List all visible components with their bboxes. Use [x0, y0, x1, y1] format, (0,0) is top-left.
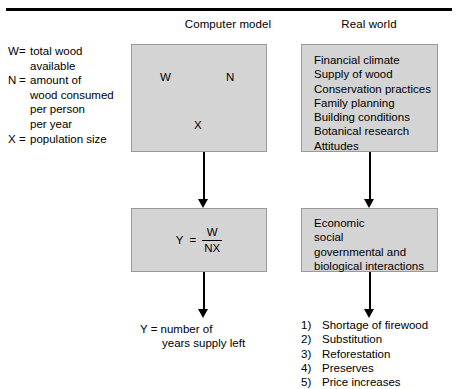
column-header-computer-model: Computer model — [185, 18, 271, 30]
arrow-head-icon — [364, 199, 374, 208]
legend-continuation: per year — [8, 117, 120, 132]
legend-item-x: X = population size — [8, 132, 120, 147]
legend-symbol: X — [8, 132, 19, 147]
legend-definition: amount of — [30, 73, 120, 88]
formula-result: Y — [176, 234, 184, 246]
legend-symbol: W — [8, 44, 19, 59]
outcome-label: Substitution — [322, 332, 382, 346]
interaction-line: governmental and — [314, 245, 433, 259]
outcome-label: Reforestation — [322, 347, 390, 361]
column-header-real-world: Real world — [341, 18, 396, 30]
arrow-down-factors-to-interactions — [364, 152, 375, 208]
arrow-down-interactions-to-outcomes — [364, 272, 375, 318]
arrow-shaft — [369, 152, 371, 199]
formula-box: Y = W NX — [131, 208, 267, 272]
legend-equals: = — [19, 132, 30, 147]
outcome-item: 4) Preserves — [301, 361, 456, 375]
variable-n: N — [226, 71, 234, 83]
arrow-head-icon — [198, 199, 208, 208]
fraction-numerator: W — [205, 226, 220, 239]
legend-continuation: available — [8, 59, 120, 74]
outcome-item: 1) Shortage of firewood — [301, 318, 456, 332]
outcome-index: 3) — [301, 347, 322, 361]
real-world-factors-box: Financial climate Supply of wood Conserv… — [301, 44, 438, 152]
interaction-line: Economic — [314, 216, 433, 230]
outcome-index: 4) — [301, 361, 322, 375]
interactions-list: Economic social governmental and biologi… — [314, 216, 433, 273]
model-output-text: Y = number of years supply left — [140, 322, 290, 351]
outcome-item: 2) Substitution — [301, 332, 456, 346]
arrow-shaft — [203, 272, 205, 309]
arrow-head-icon — [364, 309, 374, 318]
factor-item: Botanical research — [314, 124, 433, 138]
variable-x: X — [194, 119, 202, 131]
fraction-denominator: NX — [202, 241, 222, 254]
real-world-outcomes-list: 1) Shortage of firewood 2) Substitution … — [301, 318, 456, 389]
outcome-label: Preserves — [322, 361, 374, 375]
legend-definition: total wood — [30, 44, 120, 59]
model-output-line1: Y = number of — [140, 322, 290, 336]
legend-definition: population size — [30, 132, 120, 147]
legend-item-w: W = total wood — [8, 44, 120, 59]
formula-fraction: W NX — [202, 226, 222, 253]
legend-symbol: N — [8, 73, 19, 88]
flowchart-diagram: Computer model Real world W = total wood… — [0, 0, 458, 389]
formula-expression: Y = W NX — [132, 209, 266, 271]
factor-item: Supply of wood — [314, 67, 433, 81]
outcome-item: 5) Price increases — [301, 375, 456, 389]
factor-item: Conservation practices — [314, 82, 433, 96]
factor-item: Building conditions — [314, 110, 433, 124]
factor-item: Family planning — [314, 96, 433, 110]
legend-equals: = — [19, 73, 30, 88]
variable-w: W — [160, 71, 171, 83]
interactions-box: Economic social governmental and biologi… — [301, 208, 438, 272]
outcome-item: 3) Reforestation — [301, 347, 456, 361]
legend-item-n: N = amount of — [8, 73, 120, 88]
formula-equals: = — [189, 234, 196, 246]
outcome-label: Shortage of firewood — [322, 318, 428, 332]
model-variables-box: W N X — [131, 44, 267, 152]
outcome-label: Price increases — [322, 375, 401, 389]
top-horizontal-rule — [6, 8, 452, 11]
arrow-down-formula-to-output — [198, 272, 209, 318]
interaction-line: social — [314, 230, 433, 244]
legend-equals: = — [19, 44, 30, 59]
arrow-down-model-to-formula — [198, 152, 209, 208]
arrow-shaft — [203, 152, 205, 199]
arrow-shaft — [369, 272, 371, 309]
outcome-index: 5) — [301, 375, 322, 389]
outcome-index: 1) — [301, 318, 322, 332]
legend-continuation: wood consumed — [8, 88, 120, 103]
factor-list: Financial climate Supply of wood Conserv… — [314, 53, 433, 153]
variable-legend: W = total wood available N = amount of w… — [8, 44, 120, 146]
legend-continuation: per person — [8, 102, 120, 117]
factor-item: Financial climate — [314, 53, 433, 67]
outcome-index: 2) — [301, 332, 322, 346]
model-output-line2: years supply left — [140, 336, 290, 350]
arrow-head-icon — [198, 309, 208, 318]
factor-item: Attitudes — [314, 139, 433, 153]
